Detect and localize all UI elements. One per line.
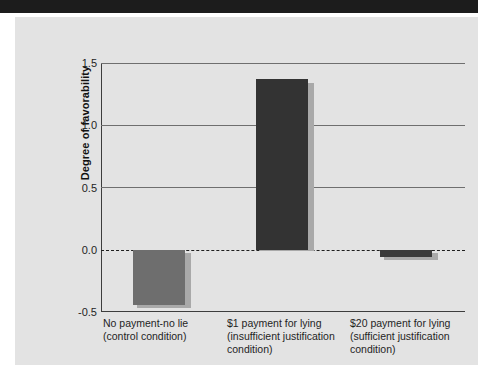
x-axis-line [101, 311, 465, 312]
y-tick-label: -0.5 [78, 306, 97, 318]
x-tick-label-control: No payment-no lie (control condition) [103, 317, 228, 343]
y-tick-label: 0.5 [82, 182, 97, 194]
plot-area [101, 63, 465, 312]
gridline-1.5 [101, 63, 465, 64]
y-tick-label: 0.0 [82, 244, 97, 256]
x-tick-label-sufficient: $20 payment for lying (sufficient justif… [350, 317, 490, 356]
top-black-band [0, 0, 478, 13]
y-tick-label: 1.0 [82, 119, 97, 131]
chart-figure-panel: Degree of favorability 1.5 1.0 0.5 0.0 -… [15, 17, 478, 365]
bar-20-dollar-payment[interactable] [380, 250, 432, 257]
y-tick-label: 1.5 [82, 57, 97, 69]
x-axis-tick-labels: No payment-no lie (control condition) $1… [101, 317, 481, 375]
bar-1-dollar-payment[interactable] [256, 79, 308, 250]
x-tick-label-insufficient: $1 payment for lying (insufficient justi… [227, 317, 367, 356]
y-axis-tick-labels: 1.5 1.0 0.5 0.0 -0.5 [61, 63, 97, 312]
bar-no-payment-no-lie[interactable] [133, 250, 185, 305]
